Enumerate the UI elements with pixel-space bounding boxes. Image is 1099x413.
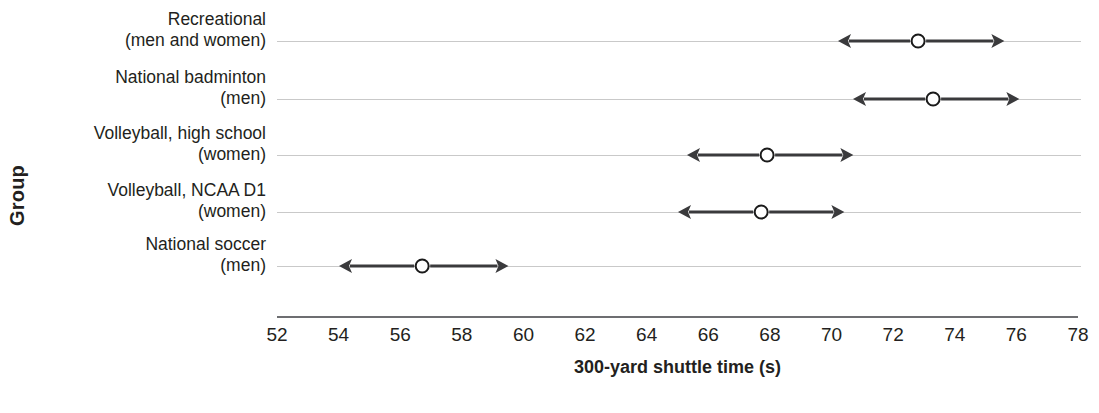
- category-label: Recreational(men and women): [125, 9, 266, 51]
- y-axis-title-text: Group: [6, 165, 29, 226]
- y-axis-title: Group: [0, 100, 34, 290]
- plot-area: [272, 0, 1099, 320]
- x-tick-label: 64: [636, 324, 657, 346]
- interval-marker: [834, 30, 1008, 52]
- category-label: National badminton(men): [115, 67, 266, 109]
- category-label-line1: National soccer: [145, 234, 266, 254]
- gridline: [277, 155, 1081, 156]
- figure-chart-shuttle-time: Group Recreational(men and women)Nationa…: [0, 0, 1099, 413]
- category-label: Volleyball, NCAA D1(women): [107, 180, 266, 222]
- x-tick-label: 72: [883, 324, 904, 346]
- x-tick-label: 70: [821, 324, 842, 346]
- x-tick-label: 68: [759, 324, 780, 346]
- category-label: Volleyball, high school(women): [94, 123, 266, 165]
- x-tick-label: 60: [513, 324, 534, 346]
- category-label: National soccer(men): [145, 234, 266, 276]
- figure-caption: [2, 392, 522, 412]
- x-tick-label: 54: [328, 324, 349, 346]
- category-label-line2: (men): [145, 255, 266, 276]
- category-label-line2: (men and women): [125, 30, 266, 51]
- category-label-line1: National badminton: [115, 67, 266, 87]
- interval-marker: [674, 201, 848, 223]
- x-tick-label: 66: [698, 324, 719, 346]
- y-axis-category-labels: Recreational(men and women)National badm…: [34, 0, 272, 300]
- category-label-line2: (women): [107, 201, 266, 222]
- x-tick-label: 56: [390, 324, 411, 346]
- x-axis-tick-labels: 5254565860626466687072747678: [0, 324, 1099, 352]
- category-label-line1: Volleyball, high school: [94, 123, 266, 143]
- interval-marker: [683, 144, 857, 166]
- category-label-line1: Volleyball, NCAA D1: [107, 180, 266, 200]
- x-tick-label: 74: [944, 324, 965, 346]
- x-tick-label: 52: [266, 324, 287, 346]
- category-label-line2: (men): [115, 88, 266, 109]
- x-tick-label: 76: [1006, 324, 1027, 346]
- x-axis-title: 300-yard shuttle time (s): [277, 357, 1078, 378]
- interval-marker: [335, 255, 512, 277]
- x-axis-line: [277, 316, 1078, 318]
- interval-marker: [849, 88, 1023, 110]
- category-label-line2: (women): [94, 144, 266, 165]
- category-label-line1: Recreational: [168, 9, 266, 29]
- x-tick-label: 62: [574, 324, 595, 346]
- x-tick-label: 58: [451, 324, 472, 346]
- x-tick-label: 78: [1067, 324, 1088, 346]
